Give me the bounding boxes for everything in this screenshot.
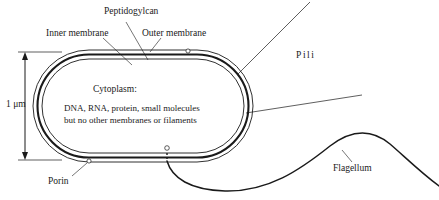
label-pili: Pili bbox=[296, 50, 316, 61]
flagellum-filament bbox=[167, 133, 439, 191]
leader-line-flagellum bbox=[342, 150, 352, 162]
bacterial-cell-diagram: Peptidogylcan Inner membrane Outer membr… bbox=[0, 0, 439, 200]
leader-line-porin bbox=[72, 163, 87, 176]
label-outer-membrane: Outer membrane bbox=[142, 28, 206, 39]
label-scale-bar: 1 μm bbox=[6, 99, 26, 110]
porin-icon-bottom bbox=[87, 159, 91, 163]
leader-line-inner-membrane bbox=[103, 38, 132, 65]
label-porin: Porin bbox=[48, 176, 69, 187]
label-inner-membrane: Inner membrane bbox=[46, 28, 109, 39]
pilus-fibre-lower bbox=[246, 95, 362, 113]
flagellum-basal-body-icon bbox=[165, 146, 170, 151]
cytoplasm-contents-line-2: but no other membranes or filaments bbox=[64, 115, 197, 125]
cytoplasm-contents-line-1: DNA, RNA, protein, small molecules bbox=[64, 103, 200, 113]
label-flagellum: Flagellum bbox=[333, 163, 372, 174]
pilus-fibre-upper bbox=[238, 2, 310, 74]
label-peptidoglycan: Peptidogylcan bbox=[104, 6, 158, 17]
scale-bar-arrowhead-up bbox=[22, 52, 28, 60]
scale-bar-arrowhead-down bbox=[22, 152, 28, 160]
porin-icon-top bbox=[186, 49, 190, 53]
cytoplasm-heading: Cytoplasm: bbox=[93, 84, 137, 95]
